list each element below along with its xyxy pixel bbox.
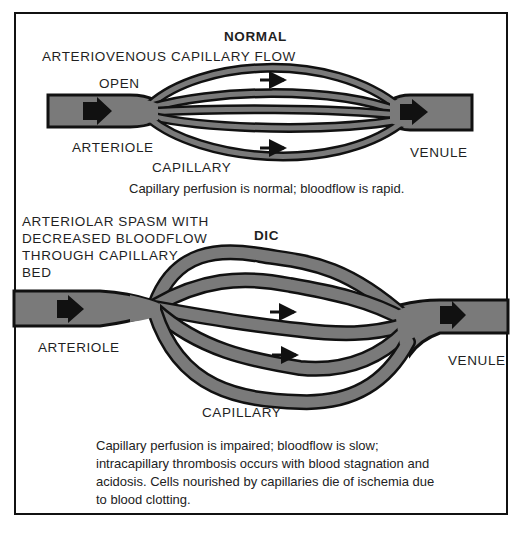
dic-vessel-network [14, 252, 508, 402]
normal-label-capillary: CAPILLARY [152, 160, 231, 175]
normal-label-venule: VENULE [410, 145, 468, 160]
dic-spasm-label-line-1: ARTERIOLAR SPASM WITH [22, 214, 209, 229]
dic-caption-line-1: Capillary perfusion is impaired; bloodfl… [96, 437, 379, 454]
normal-capillary-4 [150, 116, 400, 128]
normal-caption: Capillary perfusion is normal; bloodflow… [129, 180, 404, 197]
normal-label-arteriole: ARTERIOLE [72, 140, 154, 155]
dic-spasm-label-line-3: THROUGH CAPILLARY [22, 248, 178, 263]
dic-label-venule: VENULE [448, 353, 506, 368]
normal-title: NORMAL [224, 29, 287, 44]
normal-label-open: OPEN [99, 76, 140, 91]
dic-spasm-label-line-2: DECREASED BLOODFLOW [22, 231, 207, 246]
dic-label-capillary: CAPILLARY [202, 405, 281, 420]
normal-capillary-3 [150, 109, 400, 115]
normal-subtitle: ARTERIOVENOUS CAPILLARY FLOW [42, 49, 296, 64]
dic-caption-line-4: to blood clotting. [96, 491, 191, 508]
dic-label-arteriole: ARTERIOLE [38, 340, 120, 355]
dic-caption-line-3: acidosis. Cells nourished by capillaries… [96, 473, 434, 490]
dic-spasm-label-line-4: BED [22, 265, 52, 280]
dic-title: DIC [254, 228, 279, 243]
dic-caption-line-2: intracapillary thrombosis occurs with bl… [96, 455, 429, 472]
